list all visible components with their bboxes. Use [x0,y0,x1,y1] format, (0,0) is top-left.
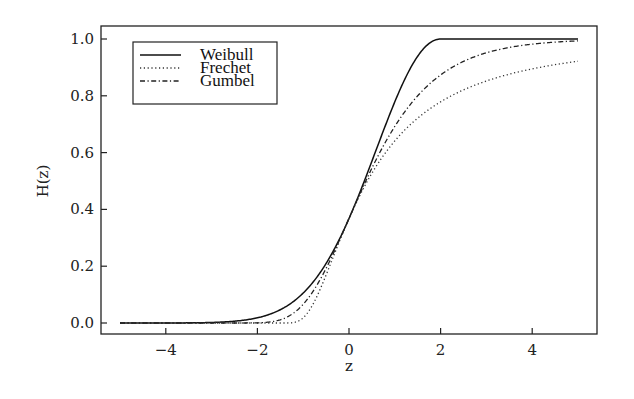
y-tick-label: 0.0 [70,314,94,332]
x-tick-label: 4 [527,341,537,359]
legend-label-gumbel: Gumbel [200,71,255,90]
x-tick-label: 2 [436,341,446,359]
x-axis-label: z [345,357,353,375]
legend: WeibullFrechetGumbel [133,42,277,104]
x-tick-label: −2 [246,341,268,359]
y-tick-label: 1.0 [70,30,94,48]
x-axis-ticks: −4−2024 [155,328,537,359]
x-tick-label: −4 [155,341,177,359]
y-axis-label: H(z) [34,165,52,198]
y-tick-label: 0.8 [70,87,94,105]
chart: −4−2024 0.00.20.40.60.81.0 z H(z) Weibul… [0,0,634,399]
y-tick-label: 0.2 [70,257,94,275]
y-tick-label: 0.4 [70,200,94,218]
y-tick-label: 0.6 [70,144,94,162]
